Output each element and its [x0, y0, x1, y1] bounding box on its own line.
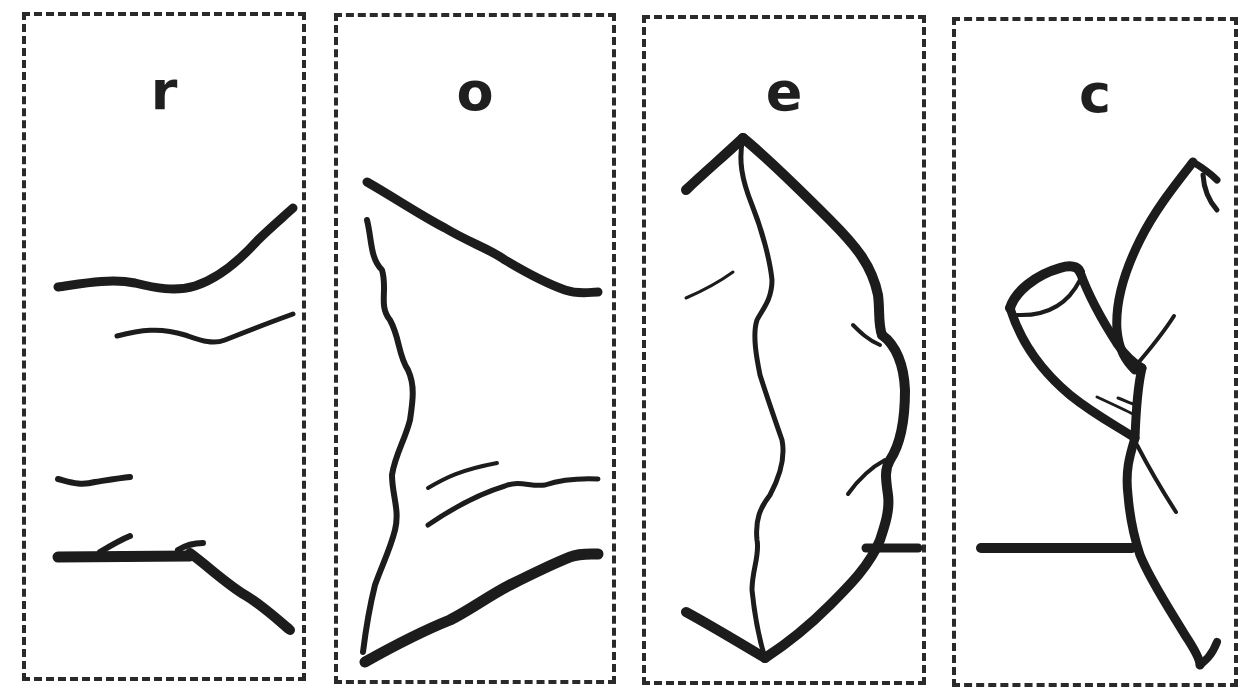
panel-c-drawing	[981, 162, 1217, 665]
panel-e-drawing	[686, 138, 918, 658]
panel-o-drawing	[363, 182, 598, 662]
panel-r-drawing	[58, 208, 293, 630]
illustration-artwork	[0, 0, 1248, 699]
